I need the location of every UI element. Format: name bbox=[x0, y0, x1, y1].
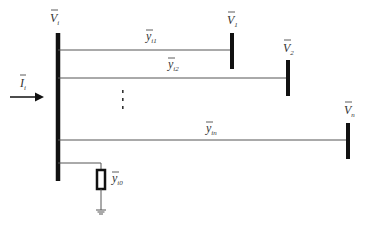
current-injection-label: Ii bbox=[19, 76, 26, 92]
branch-n: yin Vn bbox=[58, 102, 355, 159]
main-bus-voltage-label: Vi bbox=[50, 11, 59, 27]
shunt-admittance-label: yi0 bbox=[111, 171, 123, 187]
node-admittance-diagram: Vi Ii yi1 V1 yi2 V2 yin Vn bbox=[0, 0, 366, 228]
ground-icon bbox=[96, 210, 106, 214]
branch-admittance-label: yi1 bbox=[145, 29, 157, 45]
admittance-element bbox=[97, 170, 105, 189]
branch-admittance-label: yin bbox=[205, 121, 217, 137]
main-bus-i: Vi bbox=[50, 10, 59, 181]
branch-admittance-label: yi2 bbox=[167, 57, 179, 73]
ellipsis-dots bbox=[122, 90, 124, 109]
bus-voltage-label: V2 bbox=[283, 41, 294, 57]
branch-2: yi2 V2 bbox=[58, 40, 294, 96]
bus-voltage-label: Vn bbox=[344, 103, 355, 119]
arrow-right-icon bbox=[35, 93, 44, 102]
current-injection: Ii bbox=[10, 75, 44, 102]
shunt-branch: yi0 bbox=[58, 163, 123, 214]
branch-1: yi1 V1 bbox=[58, 12, 238, 69]
bus-voltage-label: V1 bbox=[227, 13, 238, 29]
